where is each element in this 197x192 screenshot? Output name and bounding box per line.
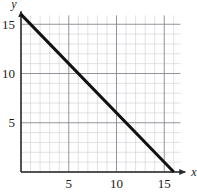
axis-lines bbox=[21, 11, 185, 172]
y-tick-label: 10 bbox=[2, 66, 15, 81]
y-axis-label: y bbox=[10, 0, 17, 11]
x-axis-label: x bbox=[190, 165, 197, 179]
line-chart: 5101551015 xy bbox=[0, 0, 197, 192]
chart-figure: 5101551015 xy bbox=[0, 0, 197, 192]
y-tick-label: 5 bbox=[9, 115, 16, 130]
x-tick-label: 10 bbox=[110, 176, 123, 191]
x-tick-label: 15 bbox=[158, 176, 171, 191]
x-tick-label: 5 bbox=[66, 176, 73, 191]
y-tick-label: 15 bbox=[2, 17, 15, 32]
